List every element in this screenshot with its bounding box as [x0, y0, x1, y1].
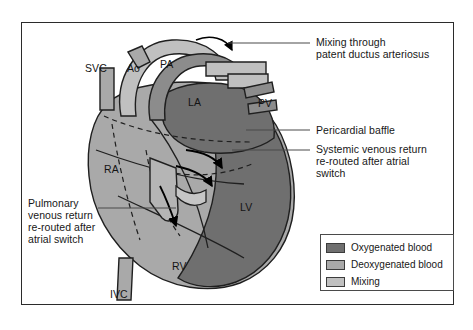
anatomy-label-pv: PV	[258, 97, 272, 109]
legend-label-oxygenated: Oxygenated blood	[351, 242, 432, 253]
callout-pericardial-baffle: Pericardial baffle	[316, 124, 395, 137]
callout-pulmonary-line3: re-routed after	[28, 221, 95, 234]
anatomy-label-la: LA	[188, 96, 201, 108]
anatomy-label-pa: PA	[160, 58, 173, 70]
anatomy-label-lv: LV	[240, 201, 252, 213]
anatomy-label-ivc: IVC	[110, 288, 128, 300]
callout-systemic-line3: switch	[316, 167, 345, 180]
anatomy-label-ra: RA	[104, 163, 119, 175]
callout-systemic-line2: re-routed after atrial	[316, 155, 409, 168]
callout-pulmonary-line4: atrial switch	[28, 233, 84, 246]
legend-swatch-deoxygenated	[326, 260, 345, 270]
legend-swatch-oxygenated	[326, 243, 345, 253]
callout-pulmonary-line2: venous return	[28, 209, 93, 222]
legend-box: Oxygenated blood Deoxygenated blood Mixi…	[320, 234, 454, 291]
legend-item-deoxygenated: Deoxygenated blood	[326, 256, 453, 273]
callout-ductus-line1: Mixing through	[316, 36, 386, 49]
callout-systemic-line1: Systemic venous return	[316, 143, 427, 156]
legend-item-oxygenated: Oxygenated blood	[326, 239, 453, 256]
callout-ductus-line2: patent ductus arteriosus	[316, 48, 429, 61]
anatomy-label-svc: SVC	[85, 62, 107, 74]
anatomy-label-ao: Ao	[127, 62, 140, 74]
callout-pulmonary-line1: Pulmonary	[28, 197, 79, 210]
anatomy-label-rv: RV	[172, 260, 187, 272]
legend-label-deoxygenated: Deoxygenated blood	[351, 259, 443, 270]
legend-swatch-mixing	[326, 277, 345, 287]
legend-label-mixing: Mixing	[351, 276, 380, 287]
legend-item-mixing: Mixing	[326, 273, 453, 290]
